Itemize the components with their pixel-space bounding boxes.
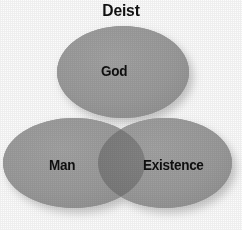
diagram-title: Deist	[10, 1, 233, 21]
set-label-existence: Existence	[143, 157, 204, 173]
venn-diagram-canvas	[0, 0, 242, 230]
set-label-god: God	[101, 63, 127, 79]
ellipse-fill-layer	[3, 26, 232, 208]
set-label-man: Man	[49, 157, 75, 173]
venn-diagram: Deist God Man Existence	[0, 0, 242, 230]
